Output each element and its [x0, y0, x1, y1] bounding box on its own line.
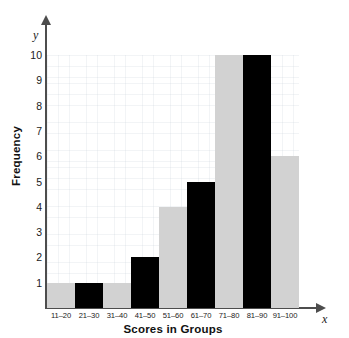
bar-91-100: [271, 156, 299, 308]
y-tick-label: 5: [26, 177, 42, 187]
bar-11-20: [47, 283, 75, 308]
bar-51-60: [159, 207, 187, 308]
bar-31-40: [103, 283, 131, 308]
bar-71-80: [215, 55, 243, 308]
y-tick-label: 1: [26, 278, 42, 288]
bar-series: [47, 55, 299, 308]
y-tick-label: 10: [26, 50, 42, 60]
histogram-chart: y x 10987654321 Frequency 11–2021–3031–4…: [0, 0, 349, 338]
y-tick-label: 6: [26, 151, 42, 161]
y-tick-label: 4: [26, 202, 42, 212]
x-tick-label: 91–100: [267, 311, 303, 320]
y-axis-tick-labels: 10987654321: [26, 0, 42, 338]
x-axis-symbol: x: [322, 312, 327, 327]
bar-41-50: [131, 257, 159, 308]
y-tick-label: 7: [26, 126, 42, 136]
y-axis-arrow-icon: [41, 15, 51, 25]
y-tick-label: 9: [26, 75, 42, 85]
y-tick-label: 3: [26, 227, 42, 237]
y-tick-label: 8: [26, 101, 42, 111]
bar-21-30: [75, 283, 103, 308]
bar-81-90: [243, 55, 271, 308]
bar-61-70: [187, 182, 215, 309]
y-axis-title: Frequency: [10, 96, 22, 216]
y-tick-label: 2: [26, 252, 42, 262]
x-axis-title: Scores in Groups: [47, 323, 299, 335]
